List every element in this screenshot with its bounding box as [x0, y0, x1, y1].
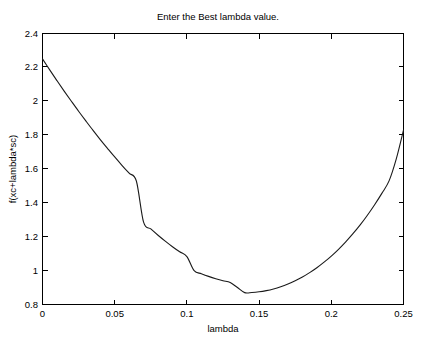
ytick-label-4: 1.6 — [25, 163, 38, 174]
ytick-label-7: 2.2 — [25, 61, 38, 72]
x-ticks-top — [115, 34, 332, 39]
xtick-label-4: 0.2 — [325, 308, 338, 319]
chart-title: Enter the Best lambda value. — [157, 11, 279, 22]
ytick-label-6: 2 — [33, 95, 38, 106]
xtick-label-0: 0 — [40, 308, 45, 319]
xtick-label-3: 0.15 — [250, 308, 269, 319]
ytick-label-2: 1.2 — [25, 231, 38, 242]
data-series-curve — [43, 59, 404, 293]
x-axis-label: lambda — [207, 323, 239, 334]
figure-canvas: Enter the Best lambda value. — [0, 0, 427, 351]
xtick-label-5: 0.25 — [394, 308, 413, 319]
xtick-label-1: 0.05 — [105, 308, 124, 319]
ytick-label-0: 0.8 — [25, 299, 38, 310]
ytick-label-3: 1.4 — [25, 197, 38, 208]
y-axis-label: f(xc+lambda*sc) — [7, 135, 18, 203]
ytick-label-8: 2.4 — [25, 28, 38, 39]
x-ticks-bottom — [43, 300, 404, 305]
ytick-label-1: 1 — [33, 265, 38, 276]
plot-area: Enter the Best lambda value. — [0, 0, 427, 351]
ytick-label-5: 1.8 — [25, 129, 38, 140]
axes-box — [43, 34, 404, 305]
y-ticks-left — [43, 34, 48, 305]
y-ticks-right — [399, 67, 404, 305]
xtick-label-2: 0.1 — [180, 308, 193, 319]
